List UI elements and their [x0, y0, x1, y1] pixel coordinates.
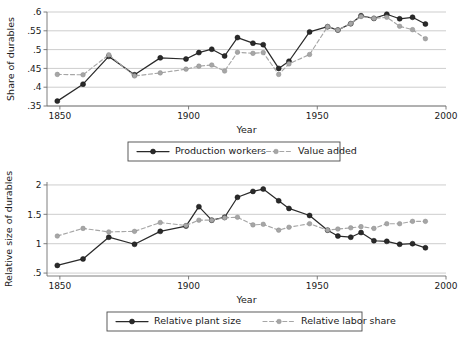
data-point-1-22	[410, 219, 415, 224]
data-point-1-15	[325, 228, 330, 233]
data-point-0-19	[371, 238, 376, 243]
legend-marker-1	[274, 149, 279, 154]
top-chart-svg: .35.4.45.5.55.61850190019502000YearShare…	[0, 0, 461, 168]
x-tick-label-1: 1900	[177, 111, 200, 121]
data-point-0-20	[384, 239, 389, 244]
data-point-0-23	[423, 22, 428, 27]
data-point-1-20	[384, 15, 389, 20]
data-point-0-0	[55, 263, 60, 268]
data-point-0-14	[307, 213, 312, 218]
data-point-0-0	[55, 99, 60, 104]
x-tick-label-0: 1850	[48, 281, 71, 291]
data-point-1-6	[197, 218, 202, 223]
legend-marker-0	[130, 319, 135, 324]
data-point-1-14	[307, 221, 312, 226]
data-point-1-23	[423, 219, 428, 224]
data-point-0-4	[158, 229, 163, 234]
data-point-1-17	[348, 21, 353, 26]
data-point-0-12	[276, 198, 281, 203]
data-point-0-3	[132, 242, 137, 247]
data-point-1-0	[55, 234, 60, 239]
data-point-1-20	[384, 221, 389, 226]
y-tick-label-2: 1.5	[27, 210, 41, 220]
data-point-0-22	[410, 241, 415, 246]
data-point-0-2	[106, 235, 111, 240]
data-point-0-6	[196, 50, 201, 55]
data-point-1-7	[209, 218, 214, 223]
data-point-1-1	[81, 72, 86, 77]
data-point-1-22	[410, 27, 415, 32]
y-axis-title: Relative size of durables	[3, 171, 14, 287]
data-point-1-4	[158, 220, 163, 225]
data-point-0-8	[222, 53, 227, 58]
legend-label-0: Relative plant size	[154, 315, 241, 326]
x-tick-label-3: 2000	[435, 281, 458, 291]
legend-label-1: Relative labor share	[301, 315, 396, 326]
data-point-1-11	[261, 50, 266, 55]
data-point-0-9	[235, 35, 240, 40]
data-point-0-16	[335, 234, 340, 239]
data-point-1-8	[222, 216, 227, 221]
data-point-1-18	[359, 224, 364, 229]
data-point-1-5	[184, 223, 189, 228]
data-point-0-14	[307, 29, 312, 34]
data-point-1-11	[261, 222, 266, 227]
y-tick-label-2: .45	[27, 64, 41, 74]
data-point-0-11	[261, 187, 266, 192]
series-line-0	[57, 189, 425, 265]
data-point-1-10	[251, 223, 256, 228]
data-point-0-13	[286, 206, 291, 211]
chart-panel-top: .35.4.45.5.55.61850190019502000YearShare…	[0, 0, 461, 168]
data-point-0-10	[250, 189, 255, 194]
data-point-1-16	[336, 227, 341, 232]
data-point-1-10	[251, 51, 256, 56]
data-point-1-9	[235, 215, 240, 220]
data-point-0-6	[196, 204, 201, 209]
data-point-0-18	[359, 230, 364, 235]
series-line-1	[57, 17, 425, 76]
data-point-1-14	[307, 52, 312, 57]
data-point-1-5	[184, 67, 189, 72]
legend-label-1: Value added	[298, 145, 357, 156]
y-tick-label-5: .6	[33, 7, 42, 17]
figure-container: .35.4.45.5.55.61850190019502000YearShare…	[0, 0, 461, 337]
y-tick-label-3: .5	[33, 45, 42, 55]
data-point-1-19	[372, 16, 377, 21]
data-point-1-2	[106, 53, 111, 58]
legend-label-0: Production workers	[175, 145, 266, 156]
data-point-1-21	[397, 221, 402, 226]
y-tick-label-0: .5	[33, 268, 42, 278]
data-point-0-1	[81, 256, 86, 261]
data-point-1-9	[235, 50, 240, 55]
data-point-1-13	[287, 62, 292, 67]
y-tick-label-0: .35	[27, 101, 41, 111]
y-tick-label-1: .4	[33, 82, 42, 92]
data-point-0-7	[209, 47, 214, 52]
data-point-1-4	[158, 71, 163, 76]
data-point-0-4	[158, 55, 163, 60]
data-point-1-1	[81, 226, 86, 231]
data-point-1-19	[372, 226, 377, 231]
data-point-1-6	[197, 64, 202, 69]
data-point-0-17	[348, 235, 353, 240]
data-point-0-12	[276, 66, 281, 71]
data-point-1-7	[209, 63, 214, 68]
x-tick-label-1: 1900	[177, 281, 200, 291]
y-axis-title: Share of durables	[5, 17, 16, 101]
data-point-1-12	[276, 228, 281, 233]
data-point-1-23	[423, 36, 428, 41]
data-point-1-2	[106, 230, 111, 235]
data-point-1-0	[55, 72, 60, 77]
data-point-1-21	[397, 24, 402, 29]
data-point-0-5	[184, 57, 189, 62]
data-point-1-12	[276, 72, 281, 77]
data-point-0-9	[235, 195, 240, 200]
y-tick-label-3: 2	[36, 180, 42, 190]
data-point-1-18	[359, 14, 364, 19]
series-line-1	[57, 217, 425, 236]
data-point-1-3	[132, 74, 137, 79]
y-tick-label-1: 1	[36, 239, 42, 249]
data-point-1-15	[325, 24, 330, 29]
data-point-1-17	[348, 226, 353, 231]
data-point-1-13	[287, 225, 292, 230]
